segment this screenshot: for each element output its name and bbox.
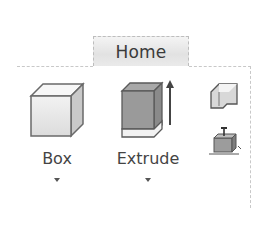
- sheet-metal-icon: [207, 80, 241, 114]
- box-button[interactable]: Box: [22, 78, 92, 188]
- ribbon-divider-right: [189, 66, 251, 67]
- tab-home[interactable]: Home: [93, 36, 189, 66]
- sheet-metal-button[interactable]: [207, 80, 241, 114]
- box-button-label: Box: [22, 149, 92, 168]
- extrude-button-label: Extrude: [108, 149, 188, 168]
- tab-home-label: Home: [115, 42, 166, 62]
- box-dropdown-caret-icon[interactable]: [54, 178, 60, 182]
- ribbon-group-separator: [250, 66, 251, 208]
- move-pull-icon: [208, 126, 242, 158]
- move-pull-button[interactable]: [208, 126, 242, 158]
- extrude-button[interactable]: Extrude: [108, 78, 188, 188]
- extrude-dropdown-caret-icon[interactable]: [145, 178, 151, 182]
- extrude-icon: [118, 79, 178, 141]
- ribbon-divider-left: [17, 66, 93, 67]
- box-icon: [27, 80, 87, 140]
